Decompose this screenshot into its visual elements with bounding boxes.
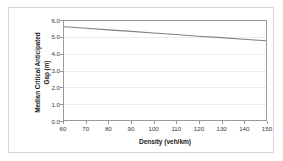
x-tick-label: 140 xyxy=(233,125,255,133)
x-tick-mark xyxy=(86,121,87,124)
x-tick-label: 130 xyxy=(211,125,233,133)
x-tick-label: 90 xyxy=(120,125,142,133)
x-tick-label: 80 xyxy=(97,125,119,133)
y-tick-label: 4.0 xyxy=(42,50,60,57)
x-tick-mark xyxy=(131,121,132,124)
data-series-line xyxy=(64,21,266,120)
x-tick-label: 110 xyxy=(165,125,187,133)
x-tick-mark xyxy=(244,121,245,124)
x-tick-label: 120 xyxy=(188,125,210,133)
x-tick-mark xyxy=(176,121,177,124)
figure-frame: Median Critical Anticipated Gap (m) 0.01… xyxy=(8,7,274,153)
x-tick-label: 150 xyxy=(256,125,278,133)
y-tick-label: 0.0 xyxy=(42,118,60,125)
y-tick-label: 2.0 xyxy=(42,84,60,91)
x-tick-mark xyxy=(63,121,64,124)
y-axis-tick-labels: 0.01.02.03.04.05.06.0 xyxy=(42,20,60,121)
x-tick-mark xyxy=(108,121,109,124)
x-tick-label: 100 xyxy=(143,125,165,133)
x-tick-mark xyxy=(267,121,268,124)
x-tick-mark xyxy=(154,121,155,124)
y-tick-label: 3.0 xyxy=(42,67,60,74)
x-axis-title: Density (veh/km) xyxy=(63,138,267,145)
x-axis-tick-labels: 60708090100110120130140150 xyxy=(63,125,267,134)
x-tick-mark xyxy=(199,121,200,124)
x-tick-label: 60 xyxy=(52,125,74,133)
y-tick-label: 6.0 xyxy=(42,17,60,24)
y-axis-title-line1: Median Critical Anticipated xyxy=(34,18,43,128)
x-tick-label: 70 xyxy=(75,125,97,133)
plot-area xyxy=(63,20,267,121)
y-tick-label: 5.0 xyxy=(42,33,60,40)
x-tick-mark xyxy=(222,121,223,124)
y-tick-label: 1.0 xyxy=(42,101,60,108)
